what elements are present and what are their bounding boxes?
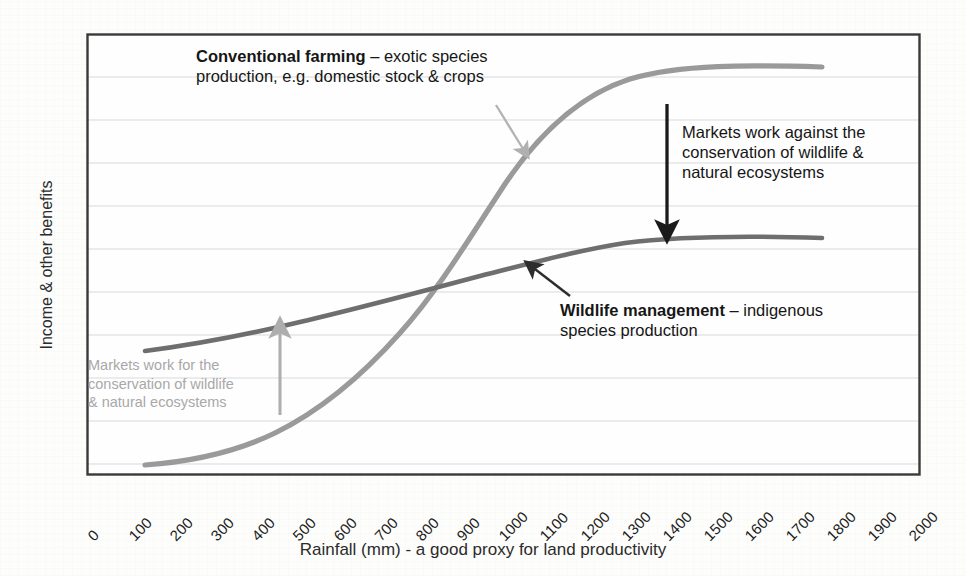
annotation-markets-against-line3: natural ecosystems [682,162,865,182]
annotation-conventional-farming-rest: – exotic species [366,47,488,65]
annotation-markets-for: Markets work for the conservation of wil… [88,356,234,412]
annotation-markets-against-line2: conservation of wildlife & [682,142,865,162]
annotation-conventional-farming: Conventional farming – exotic species pr… [196,46,488,86]
annotation-wildlife-management-line1: Wildlife management – indigenous [560,300,823,320]
annotation-wildlife-management-rest: – indigenous [725,301,823,319]
annotation-markets-for-line2: conservation of wildlife [88,375,234,394]
annotation-markets-against-line1: Markets work against the [682,122,865,142]
annotation-markets-against: Markets work against the conservation of… [682,122,865,182]
annotation-wildlife-management: Wildlife management – indigenous species… [560,300,823,340]
y-axis-title: Income & other benefits [34,120,60,410]
x-axis-title: Rainfall (mm) - a good proxy for land pr… [0,540,966,560]
annotation-wildlife-management-line2: species production [560,320,823,340]
annotation-markets-for-line1: Markets work for the [88,356,234,375]
annotation-conventional-farming-line1: Conventional farming – exotic species [196,46,488,66]
chart-figure: Income & other benefits Rainfall (mm) - … [0,0,966,576]
annotation-markets-for-line3: & natural ecosystems [88,393,234,412]
annotation-wildlife-management-bold: Wildlife management [560,301,725,319]
chart-canvas [0,0,966,576]
annotation-conventional-farming-line2: production, e.g. domestic stock & crops [196,66,488,86]
annotation-conventional-farming-bold: Conventional farming [196,47,366,65]
